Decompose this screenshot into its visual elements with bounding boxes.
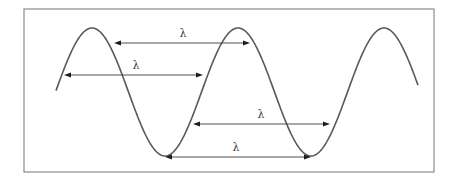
wavelength-diagram: λλλλ	[0, 0, 458, 179]
arrowhead-left-icon	[114, 40, 121, 45]
wavelength-label: λ	[133, 59, 140, 72]
wavelength-arrow: λ	[64, 59, 203, 78]
arrowhead-right-icon	[196, 72, 203, 77]
arrowhead-right-icon	[243, 40, 250, 45]
wavelength-arrow: λ	[165, 141, 311, 160]
wavelength-label: λ	[233, 141, 240, 154]
arrowhead-left-icon	[193, 121, 200, 126]
wavelength-arrow: λ	[193, 108, 330, 127]
wavelength-label: λ	[180, 27, 187, 40]
wavelength-label: λ	[258, 108, 265, 121]
arrowhead-left-icon	[64, 72, 71, 77]
wavelength-arrow: λ	[114, 27, 250, 46]
wavelength-arrows: λλλλ	[64, 27, 330, 160]
sine-wave	[56, 28, 418, 156]
arrowhead-right-icon	[323, 121, 330, 126]
